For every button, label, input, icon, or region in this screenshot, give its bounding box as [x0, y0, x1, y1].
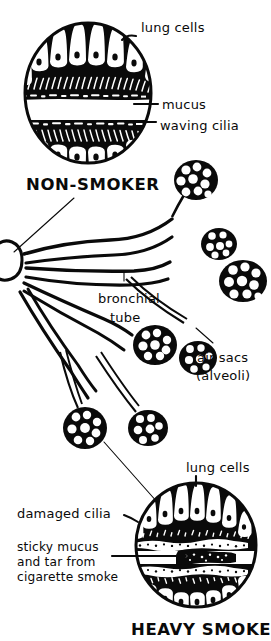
heading-non-smoker: NON-SMOKER — [26, 175, 160, 194]
airway-lumen-nonsmoker — [18, 99, 160, 120]
label-sticky-mucus-line3: cigarette smoke — [17, 570, 118, 584]
heading-heavy-smoker: HEAVY SMOKER — [131, 620, 271, 639]
lung-diagram-illustration: lung cells mucus waving cilia NON-SMOKER — [0, 0, 271, 641]
alveoli-cluster-bottom-left — [63, 407, 107, 449]
alveoli-cluster-right-middle — [219, 260, 267, 302]
label-sticky-mucus-line1: sticky mucus — [17, 540, 99, 554]
label-mucus: mucus — [162, 97, 206, 112]
label-lung-cells-top: lung cells — [141, 20, 205, 35]
label-waving-cilia: waving cilia — [160, 118, 239, 133]
figure-canvas: lung cells mucus waving cilia NON-SMOKER — [0, 0, 271, 641]
label-sticky-mucus-line2: and tar from — [17, 555, 96, 569]
alveoli-cluster-mid-lower — [133, 325, 177, 365]
alveoli-cluster-bottom-right — [128, 410, 168, 446]
alveoli-cluster-top-right — [174, 160, 218, 200]
alveoli-cluster-right-upper — [201, 228, 237, 260]
label-damaged-cilia: damaged cilia — [17, 506, 111, 521]
trachea-trunk — [0, 241, 22, 280]
label-bronchial-tube-line1: bronchial — [98, 291, 160, 306]
label-air-sacs-line1: air sacs — [197, 350, 248, 365]
label-lung-cells-bottom: lung cells — [186, 460, 250, 475]
label-bronchial-tube-line2: tube — [110, 310, 140, 325]
label-air-sacs-line2: (alveoli) — [196, 368, 250, 383]
